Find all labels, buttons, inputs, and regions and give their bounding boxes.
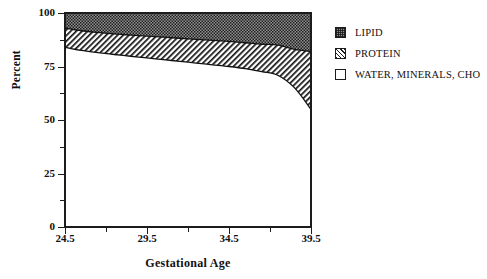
y-tick-major — [58, 67, 64, 68]
y-axis-title: Percent — [10, 50, 26, 90]
plot-area — [65, 13, 311, 227]
legend-label-water: WATER, MINERALS, CHO — [355, 69, 480, 80]
y-tick-minor — [60, 40, 64, 41]
x-tick-minor — [270, 228, 271, 232]
x-tick-label: 29.5 — [137, 233, 156, 244]
y-tick-major — [58, 13, 64, 14]
y-tick-minor — [60, 93, 64, 94]
legend-label-protein: PROTEIN — [355, 48, 401, 59]
legend-swatch-water-icon — [335, 69, 346, 80]
legend-item-protein: PROTEIN — [335, 48, 480, 59]
legend-swatch-protein-icon — [335, 48, 346, 59]
legend-swatch-lipid-icon — [335, 27, 346, 38]
x-tick-minor — [188, 228, 189, 232]
y-axis-line — [64, 12, 66, 228]
y-tick-minor — [60, 200, 64, 201]
y-tick-label: 50 — [44, 114, 55, 125]
x-tick-label: 34.5 — [219, 233, 238, 244]
x-tick-minor — [106, 228, 107, 232]
y-tick-label: 75 — [44, 61, 55, 72]
y-tick-major — [58, 227, 64, 228]
y-tick-minor — [60, 147, 64, 148]
x-tick-label: 24.5 — [55, 233, 74, 244]
y-tick-major — [58, 120, 64, 121]
plot-frame-top — [64, 12, 312, 14]
stacked-area-svg — [65, 13, 311, 227]
legend-item-lipid: LIPID — [335, 27, 480, 38]
legend-label-lipid: LIPID — [355, 27, 383, 38]
plot-frame-right — [310, 12, 312, 228]
x-axis-title: Gestational Age — [65, 256, 311, 271]
chart-legend: LIPID PROTEIN WATER, MINERALS, CHO — [335, 27, 480, 80]
y-tick-label: 25 — [44, 168, 55, 179]
y-tick-label: 0 — [50, 221, 56, 232]
x-tick-label: 39.5 — [301, 233, 320, 244]
y-tick-label: 100 — [39, 7, 56, 18]
legend-item-water: WATER, MINERALS, CHO — [335, 69, 480, 80]
y-tick-major — [58, 174, 64, 175]
chart-figure: 025507510024.529.534.539.5 Percent Gesta… — [0, 0, 487, 279]
